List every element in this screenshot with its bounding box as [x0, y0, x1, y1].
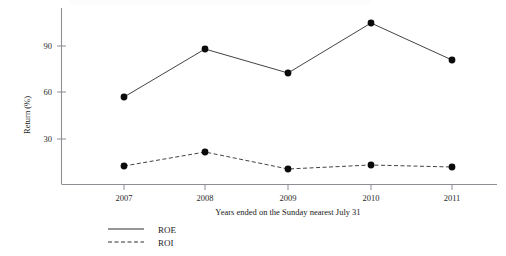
data-point-roe-2009 — [285, 70, 292, 77]
data-point-roi-2009 — [285, 166, 292, 173]
chart-figure: 90 60 30 Return (%) 2007 2008 2009 2010 … — [0, 0, 506, 256]
y-tick-label-60: 60 — [44, 87, 53, 97]
y-axis-title: Return (%) — [22, 96, 32, 134]
y-tick-label-30: 30 — [44, 134, 53, 144]
series-roe-line — [124, 23, 452, 97]
data-point-roe-2007 — [121, 94, 128, 101]
legend-entry-roi[interactable]: ROI — [108, 238, 174, 248]
x-tick-label-2010: 2010 — [363, 193, 380, 203]
x-axis-title: Years ended on the Sunday nearest July 3… — [215, 207, 360, 217]
legend-label-roe: ROE — [158, 225, 177, 235]
data-point-roe-2011 — [449, 57, 456, 64]
x-tick-label-2011: 2011 — [444, 193, 461, 203]
y-tick-label-90: 90 — [44, 41, 53, 51]
data-point-roe-2008 — [202, 46, 209, 53]
clipped-header-artifact — [70, 0, 370, 5]
x-tick-label-2009: 2009 — [280, 193, 297, 203]
series-roe — [121, 20, 456, 101]
data-point-roi-2007 — [121, 163, 128, 170]
data-point-roe-2010 — [368, 20, 375, 27]
legend-label-roi: ROI — [158, 238, 174, 248]
line-chart-canvas: 90 60 30 Return (%) 2007 2008 2009 2010 … — [0, 0, 506, 256]
x-tick-label-2007: 2007 — [116, 193, 133, 203]
data-point-roi-2011 — [449, 164, 456, 171]
legend-entry-roe[interactable]: ROE — [108, 225, 177, 235]
chart-legend: ROE ROI — [108, 225, 177, 248]
data-point-roi-2010 — [368, 162, 375, 169]
data-point-roi-2008 — [202, 149, 209, 156]
series-roi — [121, 149, 456, 173]
x-tick-label-2008: 2008 — [197, 193, 214, 203]
